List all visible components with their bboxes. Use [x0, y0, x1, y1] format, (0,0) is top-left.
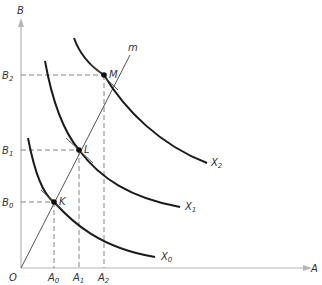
labels: B A O m K L M B0 B1 B2 A0 A1 A2 X0 X1 X2: [2, 5, 318, 285]
a2-label: A2: [97, 272, 110, 285]
point-m-label: M: [109, 69, 118, 80]
curve-x1-label: X1: [184, 201, 196, 214]
b1-label: B1: [2, 145, 13, 158]
a1-label: A1: [72, 272, 84, 285]
y-axis-label: B: [17, 5, 24, 16]
isoquant-diagram: B A O m K L M B0 B1 B2 A0 A1 A2 X0 X1 X2: [0, 0, 322, 285]
axes: [18, 18, 312, 271]
b2-label: B2: [2, 70, 14, 83]
y-axis-arrow-icon: [18, 18, 24, 27]
curve-x0: [28, 138, 155, 257]
point-k-label: K: [59, 196, 67, 207]
x-axis-label: A: [310, 263, 318, 274]
point-l-label: L: [84, 144, 90, 155]
a0-label: A0: [47, 272, 60, 285]
ray-label: m: [128, 42, 138, 53]
curve-x2: [74, 38, 207, 163]
ray-m: [21, 55, 130, 268]
tangent-marks: [41, 64, 118, 214]
curve-x2-label: X2: [210, 157, 223, 170]
point-l: [76, 147, 82, 153]
origin-label: O: [9, 272, 17, 283]
b0-label: B0: [2, 197, 14, 210]
curve-x0-label: X0: [160, 251, 173, 264]
point-k: [51, 199, 57, 205]
point-m: [101, 72, 107, 78]
curve-x1: [45, 61, 180, 207]
guide-lines: [21, 75, 104, 268]
